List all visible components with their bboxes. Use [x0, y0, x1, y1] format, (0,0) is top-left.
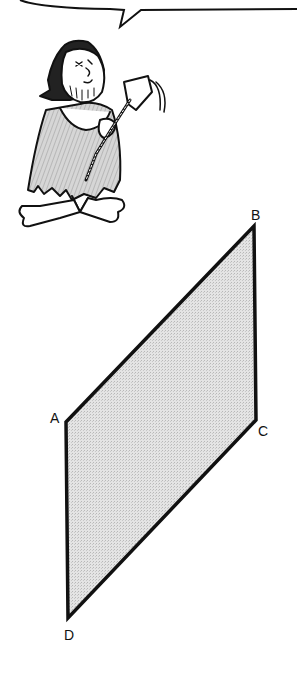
speech-bubble — [20, 0, 297, 27]
caveman-illustration — [19, 41, 165, 226]
figure-canvas: B A C D — [0, 0, 297, 676]
parallelogram-abcd — [66, 226, 256, 618]
vertex-label-a: A — [50, 410, 60, 426]
vertex-label-b: B — [251, 207, 260, 223]
vertex-label-d: D — [64, 627, 74, 643]
vertex-label-c: C — [258, 423, 268, 439]
